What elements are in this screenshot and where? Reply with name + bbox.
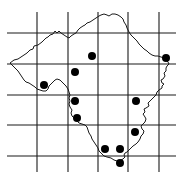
occurrence-point [132, 97, 140, 105]
occurrence-point [71, 68, 79, 76]
occurrence-point [88, 52, 96, 60]
map-background [0, 0, 179, 180]
occurrence-point [116, 159, 124, 167]
occurrence-point [131, 128, 139, 136]
occurrence-point [40, 81, 48, 89]
map-canvas [0, 0, 179, 180]
occurrence-point [116, 145, 124, 153]
occurrence-point [73, 114, 81, 122]
distribution-map [0, 0, 179, 180]
occurrence-point [162, 54, 170, 62]
occurrence-point [101, 145, 109, 153]
occurrence-point [71, 97, 79, 105]
